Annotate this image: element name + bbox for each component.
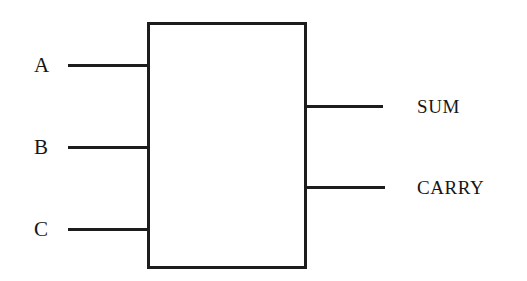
input-label-b: B (34, 137, 48, 158)
adder-block[interactable] (147, 22, 307, 269)
output-wire-sum (305, 105, 383, 108)
output-label-sum: SUM (417, 97, 460, 116)
input-label-a: A (34, 55, 49, 76)
input-wire-c (68, 228, 150, 231)
output-wire-carry (305, 186, 385, 189)
input-label-c: C (34, 219, 48, 240)
diagram-canvas: A B C SUM CARRY (0, 0, 527, 281)
input-wire-b (68, 146, 150, 149)
input-wire-a (68, 64, 150, 67)
output-label-carry: CARRY (417, 178, 484, 197)
